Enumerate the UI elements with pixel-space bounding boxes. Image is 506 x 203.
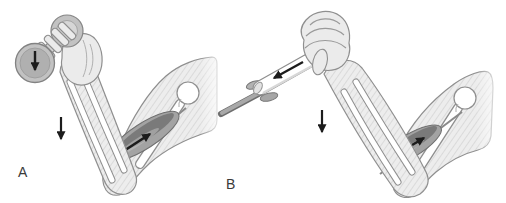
panel-a: A [16, 15, 223, 195]
arm-cut-fade [476, 58, 500, 158]
panel-label-b: B [226, 176, 235, 192]
arm-cut-fade [200, 50, 222, 140]
arm-biomechanics-illustration: A [0, 0, 506, 203]
panel-b: B [221, 11, 500, 197]
figure-canvas: A [0, 0, 506, 203]
panel-label-a: A [18, 164, 28, 180]
pull-rod [221, 92, 262, 114]
